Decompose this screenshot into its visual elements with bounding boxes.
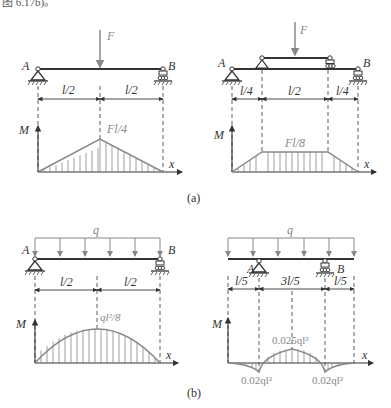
x-axis-label: x (168, 157, 175, 171)
roller-support-icon (316, 259, 334, 277)
support-b-label: B (363, 56, 371, 70)
negative-moment-label-right: 0.02ql² (312, 374, 344, 386)
load-label: q (93, 223, 99, 237)
dim-label: 3l/5 (280, 274, 300, 288)
panel-b-left: q A B l/2 l/2 M x (15, 223, 178, 363)
dim-label: l/5 (235, 274, 248, 288)
dim-label: l/4 (336, 84, 349, 98)
load-label: F (299, 23, 308, 37)
caption-a: (a) (187, 191, 200, 205)
x-axis-label: x (165, 348, 172, 362)
load-label: q (287, 223, 293, 237)
dim-label: l/4 (240, 84, 253, 98)
peak-label: ql²/8 (100, 311, 121, 323)
panel-a-right: F A B (213, 22, 376, 172)
peak-label: Fl/8 (284, 136, 305, 150)
support-a-label: A (217, 56, 226, 70)
projection-lines (35, 276, 160, 363)
distributed-load-icon (228, 238, 354, 256)
panel-b-right: q A B l/5 3l/5 l/5 (211, 223, 373, 386)
dim-label: l/2 (62, 83, 75, 97)
moment-diagram (38, 139, 163, 172)
dim-label: l/2 (124, 275, 137, 289)
moment-diagram (228, 349, 354, 372)
m-axis-label: M (211, 317, 223, 331)
support-a-label: A (21, 59, 30, 73)
projection-lines (228, 276, 354, 372)
peak-label: 0.025ql² (272, 334, 309, 346)
m-axis-label: M (15, 317, 27, 331)
dim-label: l/5 (334, 274, 347, 288)
dim-label: l/2 (288, 84, 301, 98)
x-axis-label: x (361, 348, 368, 362)
m-axis-label: M (18, 123, 30, 137)
support-b-label: B (168, 59, 176, 73)
dim-label: l/2 (60, 275, 73, 289)
beam-moment-figure: 图 6.17b)。 F A B l/2 l/2 (0, 0, 391, 408)
m-axis-label: M (213, 128, 225, 142)
panel-a-left: F A B l/2 l/2 (18, 29, 182, 172)
load-label: F (106, 29, 115, 43)
x-axis-label: x (363, 157, 370, 171)
negative-moment-label-left: 0.02ql² (241, 374, 273, 386)
header-fragment: 图 6.17b)。 (2, 0, 55, 9)
caption-b: (b) (187, 386, 201, 400)
moment-diagram (232, 152, 358, 172)
support-a-label: A (21, 243, 30, 257)
moment-diagram (35, 329, 160, 363)
dim-label: l/2 (125, 83, 138, 97)
support-b-label: B (168, 243, 176, 257)
peak-label: Fl/4 (106, 122, 127, 136)
distributed-load-icon (35, 238, 160, 256)
